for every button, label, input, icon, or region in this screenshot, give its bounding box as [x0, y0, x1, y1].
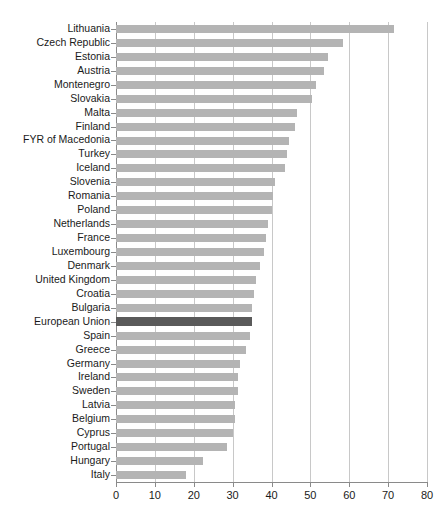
gridline-80	[427, 22, 428, 482]
bar-row	[116, 22, 427, 36]
bar-chart: LithuaniaCzech RepublicEstoniaAustriaMon…	[0, 0, 439, 526]
bar-row	[116, 106, 427, 120]
x-tick-label-60: 60	[329, 489, 369, 502]
x-tick-80	[427, 482, 428, 487]
category-label-poland: Poland	[0, 204, 110, 215]
bar-row	[116, 468, 427, 482]
category-label-european-union: European Union	[0, 316, 110, 327]
bar-poland	[116, 206, 272, 214]
bar-denmark	[116, 262, 260, 270]
bar-estonia	[116, 53, 328, 61]
bar-fyr-of-macedonia	[116, 137, 289, 145]
category-label-turkey: Turkey	[0, 148, 110, 159]
bar-sweden	[116, 387, 238, 395]
bar-row	[116, 412, 427, 426]
bar-france	[116, 234, 266, 242]
category-label-sweden: Sweden	[0, 385, 110, 396]
category-axis: LithuaniaCzech RepublicEstoniaAustriaMon…	[0, 22, 110, 482]
category-label-slovakia: Slovakia	[0, 93, 110, 104]
category-label-slovenia: Slovenia	[0, 176, 110, 187]
x-tick-label-70: 70	[368, 489, 408, 502]
category-label-spain: Spain	[0, 330, 110, 341]
bar-italy	[116, 471, 186, 479]
x-tick-20	[194, 482, 195, 487]
category-label-bulgaria: Bulgaria	[0, 302, 110, 313]
category-label-denmark: Denmark	[0, 260, 110, 271]
category-label-estonia: Estonia	[0, 51, 110, 62]
category-label-united-kingdom: United Kingdom	[0, 274, 110, 285]
bar-malta	[116, 109, 297, 117]
category-label-luxembourg: Luxembourg	[0, 246, 110, 257]
bar-finland	[116, 123, 295, 131]
bar-row	[116, 189, 427, 203]
bar-row	[116, 454, 427, 468]
bar-row	[116, 384, 427, 398]
category-label-latvia: Latvia	[0, 399, 110, 410]
category-label-italy: Italy	[0, 469, 110, 480]
bar-row	[116, 134, 427, 148]
category-label-cyprus: Cyprus	[0, 427, 110, 438]
bar-row	[116, 92, 427, 106]
x-tick-label-30: 30	[213, 489, 253, 502]
bar-iceland	[116, 164, 285, 172]
category-label-finland: Finland	[0, 121, 110, 132]
bar-series	[116, 22, 427, 482]
bar-row	[116, 287, 427, 301]
category-label-iceland: Iceland	[0, 162, 110, 173]
bar-portugal	[116, 443, 227, 451]
x-tick-50	[310, 482, 311, 487]
bar-row	[116, 329, 427, 343]
bar-czech-republic	[116, 39, 343, 47]
category-label-belgium: Belgium	[0, 413, 110, 424]
bar-row	[116, 315, 427, 329]
category-label-romania: Romania	[0, 190, 110, 201]
bar-row	[116, 147, 427, 161]
bar-row	[116, 175, 427, 189]
bar-european-union	[116, 317, 252, 326]
bar-luxembourg	[116, 248, 264, 256]
bar-row	[116, 426, 427, 440]
category-label-germany: Germany	[0, 358, 110, 369]
x-tick-60	[349, 482, 350, 487]
x-tick-label-0: 0	[96, 489, 136, 502]
bar-cyprus	[116, 429, 233, 437]
x-tick-label-40: 40	[252, 489, 292, 502]
bar-spain	[116, 332, 250, 340]
bar-united-kingdom	[116, 276, 256, 284]
bar-lithuania	[116, 25, 394, 33]
x-tick-40	[272, 482, 273, 487]
bar-row	[116, 343, 427, 357]
category-label-netherlands: Netherlands	[0, 218, 110, 229]
x-tick-label-10: 10	[135, 489, 175, 502]
bar-row	[116, 245, 427, 259]
bar-greece	[116, 346, 246, 354]
x-tick-10	[155, 482, 156, 487]
bar-row	[116, 161, 427, 175]
category-label-croatia: Croatia	[0, 288, 110, 299]
category-label-portugal: Portugal	[0, 441, 110, 452]
bar-turkey	[116, 150, 287, 158]
bar-row	[116, 50, 427, 64]
bar-row	[116, 64, 427, 78]
bar-row	[116, 36, 427, 50]
bar-montenegro	[116, 81, 316, 89]
x-tick-label-80: 80	[407, 489, 439, 502]
bar-row	[116, 357, 427, 371]
bar-row	[116, 398, 427, 412]
bar-germany	[116, 360, 240, 368]
bar-ireland	[116, 373, 238, 381]
category-label-france: France	[0, 232, 110, 243]
category-label-ireland: Ireland	[0, 371, 110, 382]
bar-row	[116, 301, 427, 315]
bar-croatia	[116, 290, 254, 298]
category-label-fyr-of-macedonia: FYR of Macedonia	[0, 134, 110, 145]
category-label-greece: Greece	[0, 344, 110, 355]
bar-latvia	[116, 401, 235, 409]
bar-row	[116, 259, 427, 273]
bar-slovakia	[116, 95, 312, 103]
x-tick-label-20: 20	[174, 489, 214, 502]
bar-austria	[116, 67, 324, 75]
category-label-hungary: Hungary	[0, 455, 110, 466]
bar-hungary	[116, 457, 203, 465]
bar-row	[116, 231, 427, 245]
